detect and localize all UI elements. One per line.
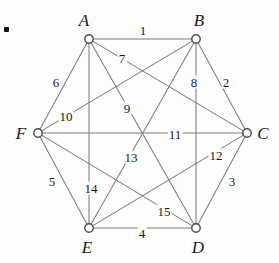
edge-weight-label-5: 5 [48, 175, 57, 188]
graph-canvas [0, 0, 279, 263]
vertex-label-F: F [16, 125, 26, 142]
vertex-label-B: B [194, 12, 204, 29]
graph-vertex-D [192, 224, 200, 232]
edge-weight-label-13: 13 [124, 151, 139, 164]
vertex-label-E: E [82, 239, 92, 256]
edge-weight-label-2: 2 [222, 76, 231, 89]
edge-weight-label-1: 1 [139, 24, 148, 37]
vertex-label-A: A [79, 12, 89, 29]
edges-group [40, 39, 245, 228]
edge-weight-label-6: 6 [52, 76, 61, 89]
graph-vertex-A [85, 35, 93, 43]
edge-weight-label-7: 7 [118, 52, 127, 65]
edge-weight-label-9: 9 [123, 102, 132, 115]
graph-vertex-F [34, 129, 42, 137]
graph-vertex-B [192, 35, 200, 43]
edge-weight-label-14: 14 [84, 182, 99, 195]
graph-vertex-C [243, 129, 251, 137]
edge-weight-label-8: 8 [190, 76, 199, 89]
edge-weight-label-3: 3 [228, 175, 237, 188]
graph-vertex-E [85, 224, 93, 232]
edge-weight-label-15: 15 [157, 205, 172, 218]
edge-weight-label-4: 4 [138, 227, 147, 240]
graph-figure: 123456789101112131415 ABCDEF [0, 0, 279, 263]
vertex-label-D: D [192, 239, 204, 256]
edge-weight-label-12: 12 [209, 149, 224, 162]
edge-weight-label-10: 10 [59, 110, 74, 123]
vertex-label-C: C [257, 125, 268, 142]
edge-weight-label-11: 11 [168, 128, 183, 141]
